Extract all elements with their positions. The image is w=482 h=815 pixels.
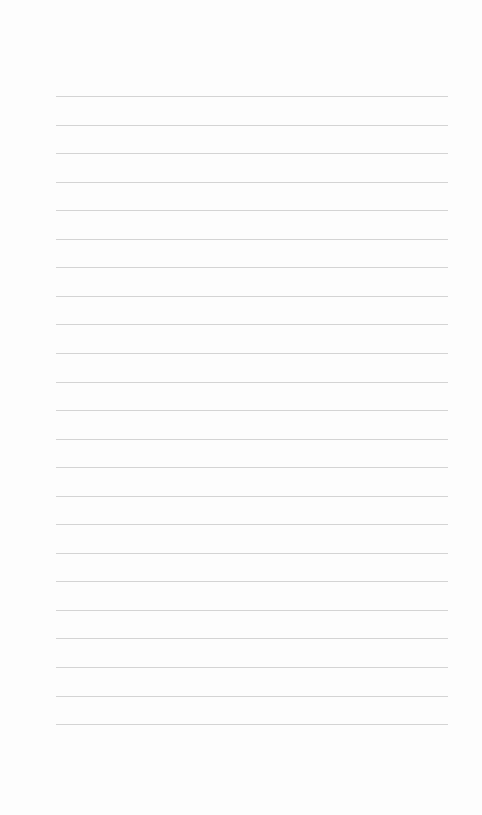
ruled-line	[56, 210, 448, 211]
ruled-line	[56, 524, 448, 525]
ruled-line	[56, 153, 448, 154]
lined-paper-page	[0, 0, 482, 815]
ruled-line	[56, 410, 448, 411]
ruled-line	[56, 667, 448, 668]
ruled-line	[56, 638, 448, 639]
ruled-line	[56, 382, 448, 383]
ruled-line	[56, 125, 448, 126]
ruled-line	[56, 267, 448, 268]
ruled-line	[56, 239, 448, 240]
ruled-line	[56, 467, 448, 468]
ruled-line	[56, 496, 448, 497]
ruled-line	[56, 96, 448, 97]
ruled-line	[56, 581, 448, 582]
ruled-line	[56, 324, 448, 325]
ruled-line	[56, 353, 448, 354]
ruled-line	[56, 610, 448, 611]
ruled-line	[56, 553, 448, 554]
ruled-line	[56, 296, 448, 297]
ruled-line	[56, 724, 448, 725]
ruled-line	[56, 182, 448, 183]
ruled-line	[56, 696, 448, 697]
ruled-line	[56, 439, 448, 440]
